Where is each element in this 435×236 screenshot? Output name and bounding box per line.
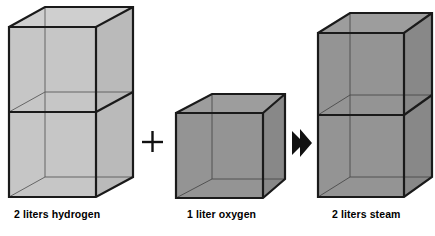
right-arrow-icon <box>292 129 312 157</box>
caption-oxygen: 1 liter oxygen <box>187 208 256 220</box>
oxygen-front-face <box>176 113 263 198</box>
caption-hydrogen: 2 liters hydrogen <box>14 208 100 220</box>
plus-sign <box>142 131 163 152</box>
box-steam <box>318 13 432 197</box>
box-hydrogen <box>9 7 133 197</box>
caption-steam: 2 liters steam <box>332 208 401 220</box>
volume-diagram <box>0 0 435 236</box>
diagram-canvas: 2 liters hydrogen 1 liter oxygen 2 liter… <box>0 0 435 236</box>
box-oxygen <box>176 94 285 198</box>
